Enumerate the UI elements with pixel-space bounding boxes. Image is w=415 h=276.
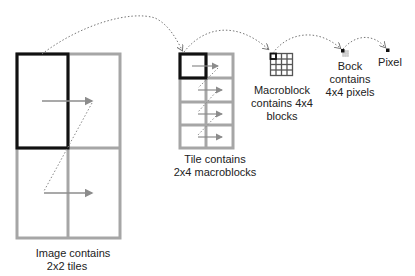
image-caption: Image contains 2x2 tiles: [28, 247, 118, 273]
pixel-square: [386, 49, 390, 53]
macroblock-caption-line3: blocks: [245, 110, 319, 123]
tile-macroblock-grid: [180, 54, 233, 148]
pixel-caption: Pixel: [370, 56, 410, 69]
pixel-caption-line1: Pixel: [370, 56, 410, 69]
macroblock-caption: Macroblock contains 4x4 blocks: [245, 84, 319, 123]
arc-block-to-pixel: [343, 37, 385, 49]
image-caption-line2: 2x2 tiles: [16, 260, 118, 273]
tile-caption: Tile contains 2x4 macroblocks: [170, 153, 260, 179]
tile-caption-line1: Tile contains: [170, 153, 260, 166]
zoom-arcs: [42, 16, 385, 54]
highlighted-block: [271, 54, 277, 60]
image-caption-line1: Image contains: [28, 247, 118, 260]
block-caption-line3: 4x4 pixels: [320, 86, 380, 99]
arc-image-to-tile: [42, 16, 182, 54]
block-caption-line2: contains: [320, 73, 380, 86]
highlighted-pixel: [341, 49, 345, 53]
tile-caption-line2: 2x4 macroblocks: [170, 166, 260, 179]
hierarchy-diagram: [0, 0, 415, 276]
macroblock-block-grid: [271, 54, 293, 76]
arc-macroblock-to-block: [273, 35, 340, 53]
block-pixel-grid: [341, 49, 349, 57]
macroblock-caption-line1: Macroblock: [245, 84, 319, 97]
arc-tile-to-macroblock: [184, 30, 268, 52]
macroblock-caption-line2: contains 4x4: [245, 97, 319, 110]
